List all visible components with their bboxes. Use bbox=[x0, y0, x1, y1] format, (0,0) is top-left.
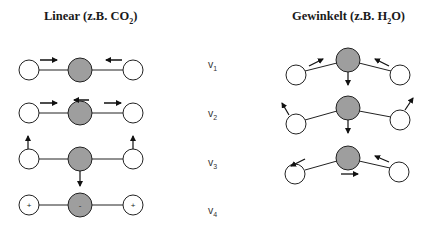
bent-v2-molecule bbox=[282, 96, 413, 134]
center-charge: - bbox=[79, 201, 82, 210]
linear-v2-molecule bbox=[19, 100, 143, 125]
outer-charge-left: + bbox=[27, 201, 32, 210]
linear-v1-molecule bbox=[19, 58, 143, 82]
outer-charge-right: + bbox=[131, 201, 136, 210]
vibration-diagram: + - + bbox=[0, 0, 429, 228]
bent-v3-molecule bbox=[285, 146, 409, 184]
linear-v3-molecule bbox=[19, 136, 143, 186]
bent-v1-molecule bbox=[286, 48, 410, 85]
